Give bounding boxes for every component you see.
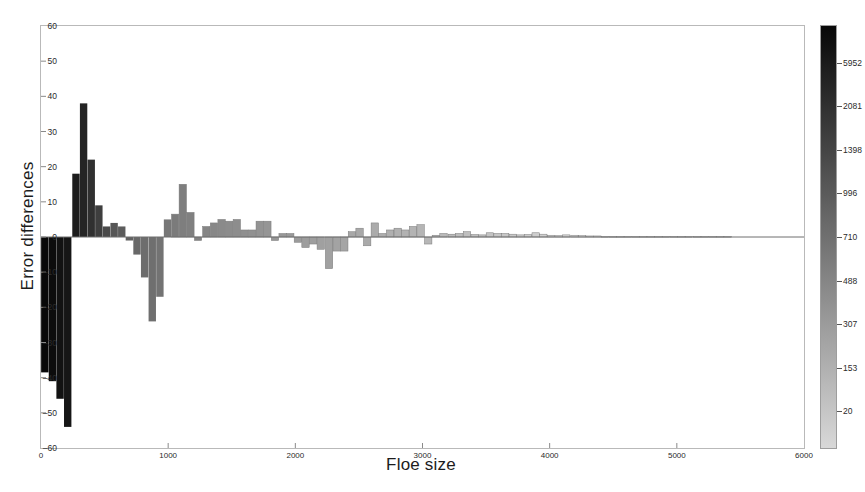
y-tick-label: 0 bbox=[27, 232, 57, 242]
bar bbox=[164, 219, 171, 237]
bar bbox=[456, 233, 463, 237]
colorbar-tick-mark bbox=[837, 281, 842, 282]
bar bbox=[133, 237, 140, 255]
bar bbox=[72, 174, 79, 237]
bar bbox=[501, 233, 508, 237]
bar bbox=[402, 230, 409, 237]
colorbar-tick-label: 20 bbox=[843, 406, 852, 416]
bar bbox=[417, 225, 424, 237]
bar bbox=[264, 221, 271, 237]
bar bbox=[271, 237, 278, 241]
bar bbox=[103, 226, 110, 237]
bar bbox=[317, 237, 324, 249]
y-tick-label: 50 bbox=[27, 56, 57, 66]
colorbar-tick-label: 710 bbox=[843, 232, 857, 242]
bar bbox=[294, 237, 301, 242]
bar bbox=[218, 219, 225, 237]
bar bbox=[287, 233, 294, 237]
bar bbox=[363, 237, 370, 246]
bar bbox=[379, 233, 386, 237]
bar bbox=[371, 223, 378, 237]
colorbar-tick-label: 1398 bbox=[843, 145, 862, 155]
colorbar-tick-label: 153 bbox=[843, 363, 857, 373]
bar bbox=[56, 237, 63, 399]
y-tick-label: –50 bbox=[27, 408, 57, 418]
bar bbox=[394, 228, 401, 237]
colorbar-tick-mark bbox=[837, 411, 842, 412]
bar bbox=[233, 219, 240, 237]
y-tick-label: –30 bbox=[27, 338, 57, 348]
y-tick-label: 10 bbox=[27, 197, 57, 207]
colorbar bbox=[820, 25, 837, 449]
bar bbox=[203, 226, 210, 237]
y-tick-label: 60 bbox=[27, 21, 57, 31]
bar bbox=[149, 237, 156, 321]
y-tick-label: 40 bbox=[27, 91, 57, 101]
bar bbox=[141, 237, 148, 277]
bar bbox=[532, 233, 539, 237]
bar bbox=[348, 232, 355, 237]
bar bbox=[210, 223, 217, 237]
bar bbox=[248, 230, 255, 237]
bar bbox=[386, 230, 393, 237]
bar bbox=[440, 233, 447, 237]
bar bbox=[171, 214, 178, 237]
bar bbox=[486, 233, 493, 237]
bar bbox=[356, 228, 363, 237]
bar bbox=[179, 184, 186, 237]
bar bbox=[325, 237, 332, 269]
bar-chart-svg bbox=[41, 26, 804, 448]
bar bbox=[126, 237, 133, 241]
x-tick-marks bbox=[168, 443, 677, 448]
bar bbox=[64, 237, 71, 427]
bar bbox=[95, 205, 102, 237]
y-tick-label: –20 bbox=[27, 302, 57, 312]
colorbar-tick-mark bbox=[837, 63, 842, 64]
x-axis-label: Floe size bbox=[36, 455, 806, 475]
colorbar-tick-mark bbox=[837, 193, 842, 194]
y-tick-label: 20 bbox=[27, 162, 57, 172]
bar bbox=[425, 237, 432, 244]
colorbar-tick-mark bbox=[837, 324, 842, 325]
bar bbox=[463, 232, 470, 237]
bar bbox=[302, 237, 309, 248]
bar bbox=[187, 212, 194, 237]
colorbar-tick-mark bbox=[837, 368, 842, 369]
bar bbox=[80, 103, 87, 237]
bar bbox=[256, 221, 263, 237]
bar bbox=[494, 233, 501, 237]
y-tick-label: –10 bbox=[27, 267, 57, 277]
colorbar-tick-mark bbox=[837, 150, 842, 151]
y-tick-label: 30 bbox=[27, 127, 57, 137]
colorbar-tick-label: 996 bbox=[843, 188, 857, 198]
bar bbox=[226, 221, 233, 237]
plot-area bbox=[40, 25, 805, 449]
colorbar-tick-label: 2081 bbox=[843, 101, 862, 111]
bar bbox=[309, 237, 316, 244]
bar bbox=[341, 237, 348, 251]
bar bbox=[118, 226, 125, 237]
bar bbox=[156, 237, 163, 297]
bar bbox=[241, 230, 248, 237]
y-tick-label: –40 bbox=[27, 373, 57, 383]
colorbar-tick-label: 5952 bbox=[843, 58, 862, 68]
bar bbox=[110, 223, 117, 237]
bar bbox=[88, 160, 95, 237]
bar bbox=[333, 237, 340, 251]
bar-series bbox=[41, 103, 731, 427]
bar bbox=[194, 237, 201, 241]
colorbar-tick-mark bbox=[837, 106, 842, 107]
colorbar-tick-label: 307 bbox=[843, 319, 857, 329]
colorbar-tick-mark bbox=[837, 237, 842, 238]
bar bbox=[409, 226, 416, 237]
bar bbox=[279, 233, 286, 237]
figure-canvas: Error differences 6050403020100–10–20–30… bbox=[0, 0, 865, 492]
colorbar-tick-label: 488 bbox=[843, 276, 857, 286]
